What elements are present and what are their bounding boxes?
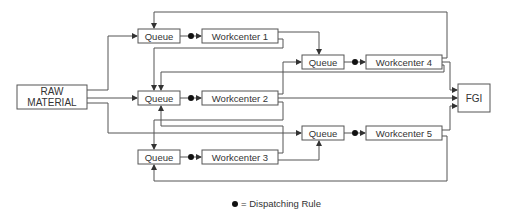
edge-wc5-to-queue3 bbox=[154, 136, 447, 181]
workcenter-2-label: Workcenter 2 bbox=[212, 93, 268, 104]
queue-2-label: Queue bbox=[145, 93, 174, 104]
dispatching-dot-icon bbox=[188, 154, 194, 160]
edge-raw-to-queue1 bbox=[87, 36, 137, 90]
edge-wc5-to-fgi bbox=[442, 106, 457, 130]
fgi-node: FGI bbox=[458, 84, 490, 112]
queue-4-node: Queue bbox=[302, 55, 344, 69]
queue-3-label: Queue bbox=[145, 152, 174, 163]
raw-material-label-line2: MATERIAL bbox=[27, 97, 77, 108]
edge-raw-to-queue5 bbox=[87, 103, 301, 133]
raw-material-node: RAW MATERIAL bbox=[17, 85, 87, 109]
queue-1-node: Queue bbox=[138, 29, 180, 43]
queue-4-label: Queue bbox=[309, 57, 338, 68]
fgi-label: FGI bbox=[466, 93, 483, 104]
workcenter-4-label: Workcenter 4 bbox=[376, 57, 432, 68]
edge-wc3-to-queue2 bbox=[161, 106, 283, 153]
workcenter-2-node: Workcenter 2 bbox=[202, 91, 278, 105]
edge-wc3-to-queue5 bbox=[278, 141, 319, 160]
queue-2-node: Queue bbox=[138, 91, 180, 105]
dispatching-dot-icon bbox=[188, 95, 194, 101]
dispatching-dot-icon bbox=[352, 59, 358, 65]
edge-wc2-to-queue4 bbox=[278, 62, 301, 94]
edge-wc1-to-queue4 bbox=[278, 32, 319, 54]
workcenter-3-label: Workcenter 3 bbox=[212, 152, 268, 163]
workcenter-5-label: Workcenter 5 bbox=[376, 128, 432, 139]
edge-wc1-to-queue2 bbox=[154, 39, 283, 90]
queue-5-label: Queue bbox=[309, 128, 338, 139]
legend-text: = Dispatching Rule bbox=[241, 198, 321, 209]
queue-1-label: Queue bbox=[145, 31, 174, 42]
dispatching-dot-icon bbox=[232, 201, 238, 207]
workcenter-1-node: Workcenter 1 bbox=[202, 29, 278, 43]
legend: = Dispatching Rule bbox=[232, 198, 321, 209]
dispatching-dot-icon bbox=[188, 33, 194, 39]
raw-material-label-line1: RAW bbox=[41, 86, 65, 97]
workcenter-5-node: Workcenter 5 bbox=[366, 126, 442, 140]
edge-wc4-to-queue1 bbox=[154, 12, 447, 58]
queue-5-node: Queue bbox=[302, 126, 344, 140]
workcenter-3-node: Workcenter 3 bbox=[202, 150, 278, 164]
queue-3-node: Queue bbox=[138, 150, 180, 164]
workcenter-4-node: Workcenter 4 bbox=[366, 55, 442, 69]
job-shop-flow-diagram: RAW MATERIAL Queue Workcenter 1 Queue Wo… bbox=[0, 0, 505, 215]
workcenter-1-label: Workcenter 1 bbox=[212, 31, 268, 42]
dispatching-dot-icon bbox=[352, 130, 358, 136]
